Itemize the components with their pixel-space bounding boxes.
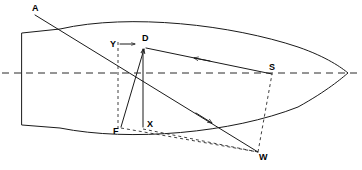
label-w: W <box>259 152 268 162</box>
dashed-w-to-s <box>258 74 272 152</box>
vector-sd-arrowhead <box>194 58 210 61</box>
label-a: A <box>32 3 39 13</box>
label-x: X <box>147 119 153 129</box>
hull-outline <box>22 22 348 135</box>
label-d: D <box>142 33 149 43</box>
label-s: S <box>269 62 275 72</box>
vector-f-to-d <box>121 49 144 127</box>
label-f: F <box>113 126 119 136</box>
label-y: Y <box>110 39 116 49</box>
hull-force-diagram: A Y D S F X W <box>0 0 362 170</box>
vector-dw-arrowhead <box>196 113 212 123</box>
diagram-canvas: A Y D S F X W <box>0 0 362 170</box>
